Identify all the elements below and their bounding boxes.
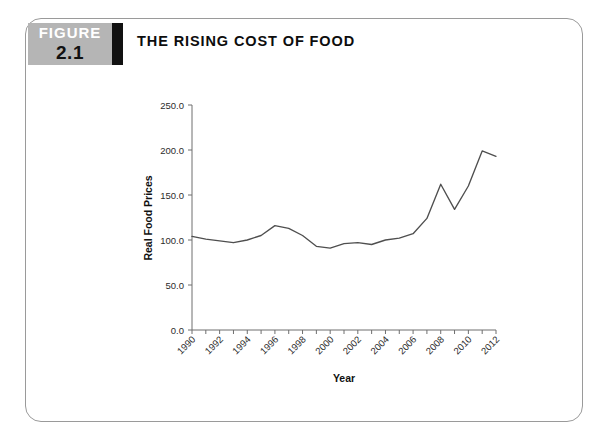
x-tick-label: 2006	[396, 334, 419, 357]
figure-card: FIGURE 2.1 THE RISING COST OF FOOD 0.050…	[25, 18, 583, 422]
x-tick-label: 2010	[451, 334, 474, 357]
y-axis-title: Real Food Prices	[142, 175, 154, 260]
x-tick-label: 2002	[341, 334, 364, 357]
x-tick-label: 2012	[479, 334, 502, 357]
chart-area: 0.050.0100.0150.0200.0250.0 199019921994…	[26, 19, 584, 423]
x-tick-label: 2008	[423, 334, 446, 357]
x-tick-label: 2004	[368, 334, 391, 357]
y-tick-label: 150.0	[160, 190, 184, 201]
x-tick-label: 1992	[202, 334, 225, 357]
y-tick-label: 50.0	[166, 280, 185, 291]
line-chart: 0.050.0100.0150.0200.0250.0 199019921994…	[26, 19, 584, 423]
x-tick-label: 2000	[313, 334, 336, 357]
y-tick-label: 200.0	[160, 145, 184, 156]
x-tick-label: 1998	[285, 334, 308, 357]
y-axis-tick-labels: 0.050.0100.0150.0200.0250.0	[160, 100, 184, 336]
x-tick-label: 1990	[175, 334, 198, 357]
x-axis-tick-labels: 1990199219941996199820002002200420062008…	[175, 334, 502, 357]
data-series-line	[192, 151, 496, 248]
x-tick-label: 1996	[258, 334, 281, 357]
x-tick-label: 1994	[230, 334, 253, 357]
y-axis-ticks	[188, 105, 192, 330]
y-tick-label: 0.0	[171, 325, 184, 336]
y-tick-label: 100.0	[160, 235, 184, 246]
x-axis-ticks	[192, 330, 496, 334]
y-tick-label: 250.0	[160, 100, 184, 111]
x-axis-title: Year	[333, 372, 355, 384]
